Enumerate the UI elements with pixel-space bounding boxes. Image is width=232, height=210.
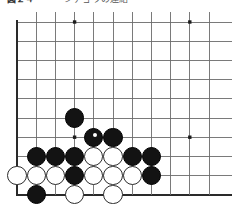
stone-black[interactable] xyxy=(142,166,161,185)
star-point xyxy=(73,20,76,23)
figure-title-label: シチョウの連絡 xyxy=(64,0,128,5)
star-point xyxy=(73,136,76,139)
stone-black[interactable] xyxy=(103,128,122,147)
stone-marker-icon xyxy=(93,133,97,137)
star-point xyxy=(188,20,191,23)
stone-black[interactable] xyxy=(46,147,65,166)
stone-white[interactable] xyxy=(103,147,122,166)
figure-number-label: 図２４ xyxy=(7,0,35,5)
stone-black[interactable] xyxy=(123,147,142,166)
stone-white[interactable] xyxy=(103,185,122,204)
caption-strip: 図２４ シチョウの連絡 xyxy=(0,0,232,7)
stone-black[interactable] xyxy=(84,128,103,147)
go-board[interactable] xyxy=(0,12,232,210)
stone-white[interactable] xyxy=(123,166,142,185)
stone-white[interactable] xyxy=(46,166,65,185)
go-diagram-root: 図２４ シチョウの連絡 xyxy=(0,0,232,210)
stone-black[interactable] xyxy=(142,147,161,166)
stone-black[interactable] xyxy=(27,147,46,166)
stone-black[interactable] xyxy=(27,185,46,204)
star-point xyxy=(188,136,191,139)
stone-white[interactable] xyxy=(7,166,26,185)
stone-black[interactable] xyxy=(65,147,84,166)
stone-black[interactable] xyxy=(65,108,84,127)
stone-white[interactable] xyxy=(27,166,46,185)
stone-white[interactable] xyxy=(103,166,122,185)
